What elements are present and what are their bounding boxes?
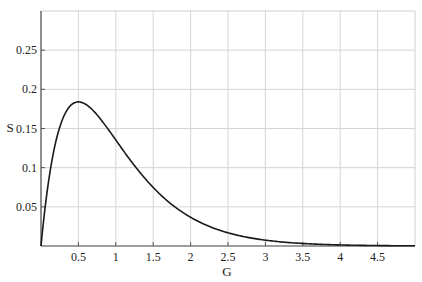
x-tick-label: 1	[113, 250, 119, 264]
y-tick-label: 0.2	[22, 82, 37, 96]
x-axis-label: G	[222, 264, 231, 279]
grid-lines	[41, 11, 415, 246]
x-tick-label: 1.5	[146, 250, 161, 264]
x-tick-label: 4	[337, 250, 343, 264]
x-tick-label: 3.5	[295, 250, 310, 264]
x-tick-label: 2.5	[221, 250, 236, 264]
x-tick-label: 0.5	[71, 250, 86, 264]
y-tick-label: 0.15	[16, 122, 37, 136]
x-tick-label: 3	[262, 250, 268, 264]
x-tick-label: 4.5	[370, 250, 385, 264]
y-tick-label: 0.05	[16, 200, 37, 214]
y-tick-label: 0.25	[16, 43, 37, 57]
y-axis-label: S	[6, 120, 13, 135]
line-chart: 0.511.522.533.544.5 0.050.10.150.20.25 G…	[0, 0, 422, 282]
y-tick-label: 0.1	[22, 161, 37, 175]
x-tick-label: 2	[188, 250, 194, 264]
